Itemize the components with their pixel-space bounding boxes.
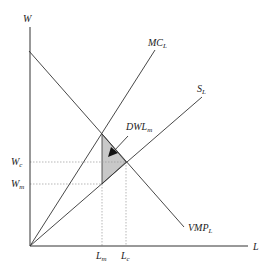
x-axis-label: L [252, 241, 259, 252]
y-axis-label: W [23, 13, 33, 24]
lm-label: Lm [95, 250, 107, 263]
lc-label: Lc [120, 250, 131, 263]
mc-label: MCL [147, 37, 167, 50]
supply-label: SL [197, 83, 206, 96]
dwl-label: DWLm [125, 121, 152, 134]
wm-label: Wm [11, 178, 24, 191]
wc-label: Wc [11, 156, 23, 169]
vmp-curve [29, 51, 184, 227]
supply-curve [30, 97, 202, 246]
dwl-arrow-line [114, 136, 128, 151]
dwl-diagram: W L MCL SL VMPL DWLm Wc Wm Lm Lc [0, 0, 268, 275]
vmp-label: VMPL [188, 222, 213, 235]
mc-curve [30, 50, 155, 246]
